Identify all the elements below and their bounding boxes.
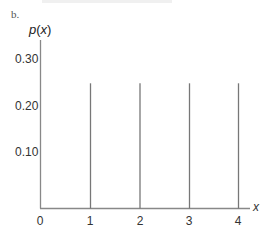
x-tick-2: 2 [133,214,147,228]
x-tick-0: 0 [33,214,47,228]
x-tick-3: 3 [182,214,196,228]
x-tick-4: 4 [231,214,245,228]
x-tick-1: 1 [83,214,97,228]
chart-plot-area [0,0,273,232]
x-axis-label: x [253,200,259,214]
